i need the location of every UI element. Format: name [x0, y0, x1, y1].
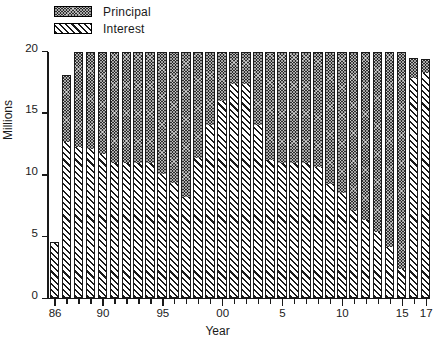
bar-segment-interest — [86, 149, 96, 297]
bar-segment-principal — [74, 52, 84, 147]
bar-02 — [241, 52, 251, 298]
legend-label-principal: Principal — [103, 6, 151, 18]
bar-97 — [181, 52, 191, 298]
y-tick: 10 — [42, 174, 48, 175]
bar-segment-principal — [349, 52, 359, 211]
y-tick-label: 20 — [25, 43, 38, 55]
bar-17 — [421, 59, 431, 297]
chart-legend: Principal Interest — [54, 4, 254, 38]
bar-segment-interest — [50, 242, 60, 298]
bar-segment-interest — [397, 269, 407, 297]
x-tick: 15 — [402, 299, 403, 306]
chart-figure: Principal Interest 05101520 869095005101… — [0, 0, 435, 349]
bar-segment-principal — [122, 52, 132, 163]
bar-15 — [397, 52, 407, 298]
x-tick — [138, 299, 139, 304]
bar-segment-principal — [229, 52, 239, 84]
legend-item-interest: Interest — [54, 21, 254, 36]
plot-area: 05101520 869095005101517 — [47, 52, 430, 299]
bar-segment-interest — [373, 232, 383, 297]
x-tick — [150, 299, 151, 304]
bar-segment-interest — [253, 125, 263, 298]
bar-01 — [229, 52, 239, 298]
bar-87 — [62, 75, 72, 297]
x-tick — [330, 299, 331, 304]
bar-segment-principal — [205, 52, 215, 125]
x-tick — [66, 299, 67, 304]
bar-segment-principal — [325, 52, 335, 184]
y-tick-label: 10 — [25, 166, 38, 178]
y-tick: 15 — [42, 112, 48, 113]
bar-8 — [313, 52, 323, 298]
x-tick — [126, 299, 127, 304]
x-tick — [186, 299, 187, 304]
bar-segment-principal — [62, 75, 72, 142]
bar-96 — [169, 52, 179, 298]
x-tick: 10 — [342, 299, 343, 306]
y-tick: 0 — [42, 298, 48, 299]
bar-86 — [50, 242, 60, 298]
bar-segment-principal — [277, 52, 287, 163]
bar-04 — [265, 52, 275, 298]
bar-segment-interest — [157, 174, 167, 298]
y-tick-label: 0 — [32, 290, 38, 302]
x-tick-label: 90 — [97, 308, 110, 320]
bar-segment-principal — [337, 52, 347, 193]
bar-segment-principal — [169, 52, 179, 183]
bar-segment-principal — [181, 52, 191, 198]
x-tick-label: 15 — [396, 308, 409, 320]
x-tick: 95 — [162, 299, 163, 306]
bar-segment-interest — [205, 125, 215, 298]
bar-6 — [289, 52, 299, 298]
bar-12 — [361, 52, 371, 298]
x-tick: 90 — [102, 299, 103, 306]
bar-segment-interest — [193, 158, 203, 298]
bar-segment-principal — [397, 52, 407, 269]
x-axis-line — [47, 298, 430, 300]
x-tick-label: 95 — [156, 308, 169, 320]
x-tick — [294, 299, 295, 304]
bar-segment-interest — [289, 163, 299, 298]
bar-segment-principal — [110, 52, 120, 163]
bar-segment-interest — [181, 197, 191, 297]
bar-segment-principal — [373, 52, 383, 232]
bar-11 — [349, 52, 359, 298]
bar-segment-interest — [98, 154, 108, 297]
bar-segment-interest — [277, 163, 287, 298]
bar-segment-interest — [62, 142, 72, 298]
x-tick — [318, 299, 319, 304]
x-tick: 00 — [222, 299, 223, 306]
bar-13 — [373, 52, 383, 298]
bar-segment-interest — [421, 73, 431, 298]
bar-segment-interest — [217, 101, 227, 297]
bar-segment-interest — [409, 78, 419, 298]
bar-93 — [133, 52, 143, 298]
bar-89 — [86, 52, 96, 298]
x-tick — [306, 299, 307, 304]
x-tick — [114, 299, 115, 304]
bar-88 — [74, 52, 84, 298]
x-tick: 86 — [54, 299, 55, 306]
bar-16 — [409, 58, 419, 298]
bar-segment-interest — [122, 163, 132, 298]
y-tick-label: 5 — [32, 228, 38, 240]
bar-segment-interest — [337, 193, 347, 298]
x-tick — [234, 299, 235, 304]
bar-95 — [157, 52, 167, 298]
x-tick-label: 86 — [49, 308, 62, 320]
y-tick: 5 — [42, 236, 48, 237]
bar-segment-principal — [193, 52, 203, 158]
x-tick — [246, 299, 247, 304]
bar-10 — [337, 52, 347, 298]
bar-7 — [301, 52, 311, 298]
bar-segment-principal — [133, 52, 143, 163]
bar-segment-interest — [349, 211, 359, 297]
x-axis-title: Year — [0, 325, 435, 337]
x-tick — [366, 299, 367, 304]
bar-03 — [253, 52, 263, 298]
x-tick — [378, 299, 379, 304]
bar-segment-principal — [98, 52, 108, 155]
legend-label-interest: Interest — [103, 23, 145, 35]
bar-segment-interest — [301, 163, 311, 298]
bar-14 — [385, 52, 395, 298]
